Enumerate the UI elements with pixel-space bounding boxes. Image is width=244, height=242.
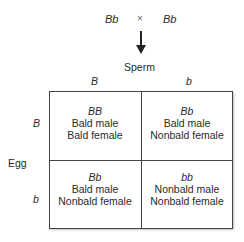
grid-divider-horizontal [49,160,233,161]
cell-genotype: BB [49,105,141,117]
cell-male-phenotype: Nonbald male [141,183,233,195]
cell-Bb-bottom: Bb Bald male Nonbald female [49,171,141,207]
cell-genotype: Bb [141,105,233,117]
sperm-label: Sperm [124,61,155,73]
cell-male-phenotype: Bald male [141,117,233,129]
parent2-genotype: Bb [163,13,176,25]
column-allele-B: B [91,75,98,87]
cell-genotype: Bb [49,171,141,183]
cell-female-phenotype: Bald female [49,129,141,141]
row-allele-b: b [33,193,39,205]
cell-bb: bb Nonbald male Nonbald female [141,171,233,207]
cell-male-phenotype: Bald male [49,183,141,195]
cross-symbol: × [137,13,143,24]
cell-genotype: bb [141,171,233,183]
arrow-head-icon [136,45,146,54]
row-allele-B: B [33,117,40,129]
egg-label: Egg [8,157,27,169]
cell-Bb-top: Bb Bald male Nonbald female [141,105,233,141]
cell-male-phenotype: Bald male [49,117,141,129]
cell-female-phenotype: Nonbald female [49,195,141,207]
column-allele-b: b [186,75,192,87]
cell-female-phenotype: Nonbald female [141,195,233,207]
cell-BB: BB Bald male Bald female [49,105,141,141]
cell-female-phenotype: Nonbald female [141,129,233,141]
parent1-genotype: Bb [105,13,118,25]
